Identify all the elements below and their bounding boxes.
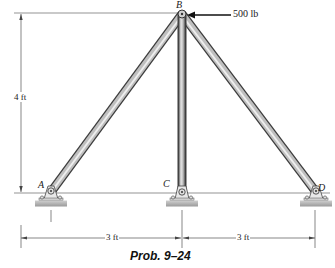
height-dimension-label: 4 ft <box>13 92 27 102</box>
load-arrow <box>187 12 231 19</box>
member-CB <box>178 14 187 192</box>
span-dimension <box>21 210 315 248</box>
support-D <box>300 186 332 207</box>
span-AC-label: 3 ft <box>105 232 119 242</box>
label-point-B: B <box>176 0 182 10</box>
label-point-D: D <box>318 182 325 193</box>
figure-caption: Prob. 9–24 <box>130 249 191 263</box>
span-CD-label: 3 ft <box>236 232 250 242</box>
member-AB <box>51 14 183 192</box>
label-point-C: C <box>163 178 170 189</box>
height-dimension <box>19 14 22 192</box>
load-label: 500 lb <box>233 8 258 19</box>
support-C <box>166 186 198 207</box>
truss-diagram <box>0 0 335 268</box>
label-point-A: A <box>38 179 44 190</box>
member-DB <box>181 14 316 192</box>
